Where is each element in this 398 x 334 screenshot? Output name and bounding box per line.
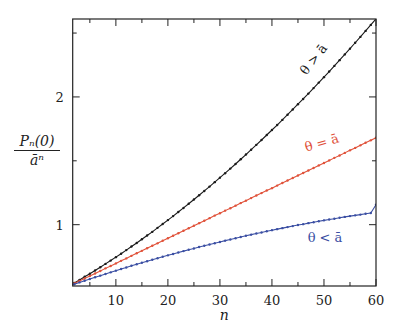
data-point: [370, 139, 372, 141]
data-point: [312, 167, 314, 169]
data-point: [167, 254, 169, 256]
data-point: [135, 242, 137, 244]
data-point: [99, 266, 101, 268]
data-point: [370, 24, 372, 26]
data-point: [271, 229, 273, 231]
data-point: [188, 227, 190, 229]
data-point: [318, 164, 320, 166]
data-point: [203, 245, 205, 247]
data-point: [307, 222, 309, 224]
data-point: [234, 163, 236, 165]
data-point: [323, 219, 325, 221]
data-point: [240, 158, 242, 160]
data-point: [323, 76, 325, 78]
data-point: [156, 242, 158, 244]
data-point: [224, 209, 226, 211]
data-point: [224, 239, 226, 241]
x-tick-label: 50: [316, 293, 333, 308]
data-point: [73, 283, 75, 285]
data-point: [172, 235, 174, 237]
data-point: [151, 231, 153, 233]
data-point: [354, 42, 356, 44]
data-point: [255, 232, 257, 234]
data-point: [203, 220, 205, 222]
data-point: [286, 226, 288, 228]
data-point: [219, 241, 221, 243]
data-point: [120, 252, 122, 254]
x-axis-label: n: [220, 307, 229, 323]
data-point: [286, 179, 288, 181]
data-point: [328, 218, 330, 220]
data-point: [234, 237, 236, 239]
data-point: [338, 59, 340, 61]
data-point: [318, 81, 320, 83]
x-tick-label: 20: [160, 293, 177, 308]
data-point: [182, 207, 184, 209]
data-point: [182, 250, 184, 252]
data-point: [120, 260, 122, 262]
data-point: [328, 70, 330, 72]
data-point: [250, 197, 252, 199]
data-point: [338, 217, 340, 219]
data-point: [109, 265, 111, 267]
data-point: [266, 189, 268, 191]
data-point: [198, 222, 200, 224]
data-point: [297, 174, 299, 176]
data-point: [208, 185, 210, 187]
data-point: [312, 221, 314, 223]
y-axis-label: Pₙ(0) āⁿ: [14, 133, 60, 168]
data-point: [94, 276, 96, 278]
data-point: [292, 225, 294, 227]
data-point: [364, 30, 366, 32]
data-point: [177, 232, 179, 234]
data-point: [68, 285, 70, 287]
y-tick-label: 2: [55, 90, 63, 105]
data-point: [260, 192, 262, 194]
data-point: [188, 203, 190, 205]
data-point: [115, 262, 117, 264]
data-point: [130, 245, 132, 247]
data-point: [297, 224, 299, 226]
data-point: [349, 215, 351, 217]
data-point: [141, 238, 143, 240]
data-point: [349, 47, 351, 49]
data-point: [141, 262, 143, 264]
data-point: [333, 217, 335, 219]
data-point: [151, 258, 153, 260]
data-point: [146, 234, 148, 236]
data-point: [89, 273, 91, 275]
data-point: [370, 212, 372, 214]
data-point: [312, 87, 314, 89]
data-point: [99, 274, 101, 276]
data-point: [83, 280, 85, 282]
data-point: [219, 212, 221, 214]
x-tick-label: 30: [212, 293, 229, 308]
data-point: [135, 252, 137, 254]
data-point: [167, 219, 169, 221]
data-point: [349, 149, 351, 151]
data-point: [151, 245, 153, 247]
data-point: [224, 172, 226, 174]
data-point: [219, 176, 221, 178]
data-point: [94, 269, 96, 271]
data-point: [328, 159, 330, 161]
data-point: [333, 65, 335, 67]
data-point: [245, 235, 247, 237]
data-point: [260, 139, 262, 141]
series-label: θ = ā: [303, 131, 341, 155]
data-point: [125, 257, 127, 259]
data-point: [172, 253, 174, 255]
data-point: [307, 169, 309, 171]
data-point: [177, 251, 179, 253]
data-point: [130, 255, 132, 257]
data-point: [318, 220, 320, 222]
data-point: [266, 230, 268, 232]
data-point: [344, 152, 346, 154]
data-point: [229, 207, 231, 209]
series-2: [68, 204, 377, 288]
data-point: [167, 237, 169, 239]
data-point: [260, 231, 262, 233]
data-point: [286, 113, 288, 115]
data-point: [156, 227, 158, 229]
data-point: [99, 270, 101, 272]
